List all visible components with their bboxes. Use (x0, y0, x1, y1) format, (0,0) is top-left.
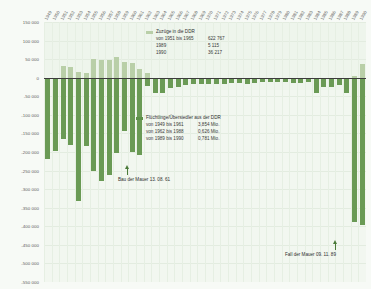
bar-positive (68, 67, 73, 78)
bar-negative (183, 78, 188, 85)
legend-zuzuege-title: Zuzüge in die DDR (156, 30, 195, 35)
legend-value: 3,854 Mio. (198, 123, 219, 128)
bar-negative (91, 78, 96, 172)
legend-zuzuege-title-row: Zuzüge in die DDR (146, 30, 225, 35)
y-axis-tick-label: -100 000 (21, 112, 39, 117)
bar-positive (360, 64, 365, 77)
legend-row: von 1989 bis 1990 0,781 Mio. (146, 137, 221, 142)
plot-area (44, 22, 366, 282)
y-axis-tick-label: -450 000 (21, 242, 39, 247)
y-axis-tick-label: -250 000 (21, 168, 39, 173)
bar-positive (99, 60, 104, 77)
legend-period: von 1951 bis 1965 (156, 37, 208, 42)
legend-period: von 1962 bis 1988 (146, 130, 198, 135)
y-axis-tick-label: -500 000 (21, 261, 39, 266)
fall-der-mauer-pointer-stem (335, 244, 336, 250)
y-axis-tick-label: -550 000 (21, 280, 39, 285)
bar-negative (176, 78, 181, 87)
legend-period: 1989 (156, 44, 208, 49)
bau-der-mauer-annotation: Bau der Mauer 13. 08. 61 (118, 177, 170, 182)
x-axis-year-labels: 1949195019511952195319541955195619571958… (44, 0, 366, 22)
bar-positive (122, 62, 127, 78)
bar-negative (314, 78, 319, 93)
legend-swatch-icon-zuzuege (146, 31, 153, 34)
bar-positive (61, 66, 66, 78)
bau-der-mauer-pointer-stem (127, 169, 128, 175)
bar-negative (107, 78, 112, 175)
legend-row: von 1962 bis 1988 0,626 Mio. (146, 130, 221, 135)
legend-zuzuege: Zuzüge in die DDR von 1951 bis 1965 622 … (146, 30, 225, 58)
legend-period: 1990 (156, 51, 208, 56)
bar-negative (337, 78, 342, 85)
bar-positive (130, 63, 135, 78)
bar-positive (137, 69, 142, 78)
bar-negative (61, 78, 66, 139)
bar-negative (344, 78, 349, 93)
bar-positive (91, 59, 96, 78)
legend-row: von 1949 bis 1961 3,854 Mio. (146, 123, 221, 128)
legend-fluechtlinge-title-row: Flüchtlinge/Übersiedler aus der DDR (136, 116, 221, 121)
y-axis-tick-label: -200 000 (21, 150, 39, 155)
bar-negative (360, 78, 365, 225)
bar-negative (321, 78, 326, 87)
bar-positive (114, 57, 119, 77)
y-axis-tick-label: -400 000 (21, 224, 39, 229)
legend-period: von 1989 bis 1990 (146, 137, 198, 142)
legend-swatch-icon-fluechtlinge (136, 117, 143, 120)
bau-der-mauer-arrow-icon (125, 165, 129, 169)
x-axis-tick-label: 1949 (44, 10, 53, 21)
fall-der-mauer-annotation: Fall der Mauer 09. 11. 89 (285, 252, 336, 257)
bars-layer (44, 22, 366, 282)
bar-negative (45, 78, 50, 160)
legend-row: 1990 36 217 (156, 51, 225, 56)
y-axis-tick-label: 100 000 (23, 38, 39, 43)
y-axis-tick-label: -150 000 (21, 131, 39, 136)
bar-negative (160, 78, 165, 93)
bar-negative (114, 78, 119, 154)
y-axis-labels: 150 000100 00050 0000-50 000-100 000-150… (0, 22, 42, 282)
legend-value: 36 217 (208, 51, 222, 56)
zero-baseline (44, 78, 366, 79)
y-axis-tick-label: 0 (37, 75, 40, 80)
legend-value: 0,781 Mio. (198, 137, 219, 142)
legend-value: 5 115 (208, 44, 219, 49)
legend-fluechtlinge-title: Flüchtlinge/Übersiedler aus der DDR (146, 116, 221, 121)
bar-negative (122, 78, 127, 131)
bar-negative (145, 78, 150, 86)
fall-der-mauer-arrow-icon (333, 240, 337, 244)
bar-negative (68, 78, 73, 146)
y-axis-tick-label: -300 000 (21, 187, 39, 192)
bar-negative (84, 78, 89, 146)
bar-negative (76, 78, 81, 201)
y-axis-tick-label: -50 000 (24, 94, 39, 99)
legend-value: 0,626 Mio. (198, 130, 219, 135)
bar-negative (352, 78, 357, 222)
legend-row: von 1951 bis 1965 622 767 (156, 37, 225, 42)
migration-bar-chart: 150 000100 00050 0000-50 000-100 000-150… (0, 0, 371, 289)
legend-value: 622 767 (208, 37, 225, 42)
legend-fluechtlinge: Flüchtlinge/Übersiedler aus der DDR von … (136, 116, 221, 144)
bar-negative (99, 78, 104, 182)
bar-positive (107, 60, 112, 78)
y-axis-tick-label: 50 000 (25, 57, 39, 62)
legend-period: von 1949 bis 1961 (146, 123, 198, 128)
bar-negative (168, 78, 173, 89)
y-axis-tick-label: -350 000 (21, 205, 39, 210)
bar-negative (329, 78, 334, 88)
bar-negative (153, 78, 158, 94)
bar-negative (130, 78, 135, 152)
legend-row: 1989 5 115 (156, 44, 225, 49)
y-axis-tick-label: 150 000 (23, 20, 39, 25)
bar-negative (53, 78, 58, 151)
